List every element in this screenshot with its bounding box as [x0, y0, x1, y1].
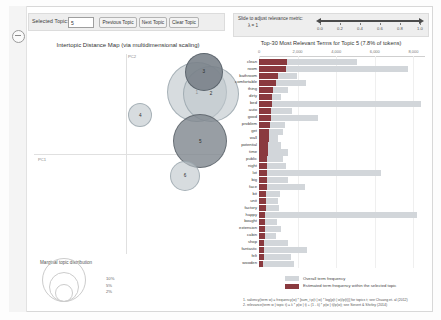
- term-bar-row[interactable]: happy: [259, 212, 425, 218]
- marginal-legend-size-label: 10%: [106, 276, 114, 281]
- term-label[interactable]: get: [217, 128, 257, 133]
- term-label[interactable]: big: [217, 177, 257, 182]
- topic-frequency-bar: [259, 170, 267, 176]
- topic-frequency-bar: [259, 233, 265, 239]
- topic-frequency-bar: [259, 261, 263, 267]
- topic-bubble-6[interactable]: 6: [170, 161, 200, 191]
- clear-topic-button[interactable]: Clear Topic: [169, 17, 199, 28]
- topic-input[interactable]: 5: [68, 17, 94, 28]
- term-bar-row[interactable]: public: [259, 156, 425, 162]
- legend-swatch: [285, 284, 299, 289]
- topic-frequency-bar: [259, 149, 268, 155]
- slider-tickmark: [380, 23, 381, 25]
- term-label[interactable]: bit: [217, 191, 257, 196]
- topic-frequency-bar: [259, 205, 266, 211]
- term-label[interactable]: bed: [217, 100, 257, 105]
- pc1-axis-label: PC1: [38, 157, 46, 162]
- topic-frequency-bar: [259, 108, 271, 114]
- term-bar-row[interactable]: problem: [259, 122, 425, 128]
- previous-topic-button[interactable]: Previous Topic: [99, 17, 137, 28]
- term-bar-row[interactable]: auto: [259, 108, 425, 114]
- term-bar-row[interactable]: bit: [259, 191, 425, 197]
- term-bar-row[interactable]: extension: [259, 226, 425, 232]
- term-frequency-bar-chart[interactable]: 02,0004,0006,0008,000cleanroombathroomco…: [259, 56, 425, 268]
- term-label[interactable]: public: [217, 156, 257, 161]
- term-label[interactable]: wooden: [217, 260, 257, 265]
- top-terms-title: Top-30 Most Relevant Terms for Topic 5 (…: [233, 40, 429, 46]
- overall-frequency-bar: [259, 247, 307, 253]
- term-bar-row[interactable]: comfortable: [259, 80, 425, 86]
- term-bar-row[interactable]: bought: [259, 219, 425, 225]
- term-bar-row[interactable]: shop: [259, 240, 425, 246]
- term-label[interactable]: clean: [217, 59, 257, 64]
- term-label[interactable]: factory: [217, 205, 257, 210]
- term-bar-row[interactable]: face: [259, 184, 425, 190]
- term-label[interactable]: time: [217, 149, 257, 154]
- term-label[interactable]: shop: [217, 239, 257, 244]
- collapse-icon[interactable]: [12, 30, 25, 43]
- term-bar-row[interactable]: good: [259, 115, 425, 121]
- term-label[interactable]: lot: [217, 170, 257, 175]
- term-bar-row[interactable]: get: [259, 129, 425, 135]
- topic-frequency-bar: [259, 135, 269, 141]
- term-label[interactable]: good: [217, 114, 257, 119]
- topic-frequency-bar: [259, 177, 267, 183]
- term-bar-row[interactable]: fantastic: [259, 247, 425, 253]
- term-label[interactable]: unit: [217, 198, 257, 203]
- topic-frequency-bar: [259, 247, 264, 253]
- slider-tickmark: [320, 23, 321, 25]
- term-bar-row[interactable]: big: [259, 177, 425, 183]
- term-bar-row[interactable]: cabin: [259, 233, 425, 239]
- term-bar-row[interactable]: room: [259, 66, 425, 72]
- term-label[interactable]: auto: [217, 107, 257, 112]
- term-bar-row[interactable]: clean: [259, 59, 425, 65]
- term-label[interactable]: problem: [217, 121, 257, 126]
- term-label[interactable]: potential: [217, 142, 257, 147]
- term-label[interactable]: wall: [217, 135, 257, 140]
- topic-frequency-bar: [259, 94, 272, 100]
- term-label[interactable]: face: [217, 184, 257, 189]
- term-bar-row[interactable]: night: [259, 163, 425, 169]
- topic-frequency-bar: [259, 115, 271, 121]
- topic-frequency-bar: [259, 101, 272, 107]
- relevance-slider-panel: Slide to adjust relevance metric: λ = 1 …: [233, 13, 429, 37]
- term-bar-row[interactable]: thing: [259, 87, 425, 93]
- term-bar-row[interactable]: felt: [259, 254, 425, 260]
- legend-swatch: [285, 276, 299, 281]
- term-label[interactable]: fantastic: [217, 246, 257, 251]
- term-bar-row[interactable]: dirty: [259, 94, 425, 100]
- term-label[interactable]: night: [217, 163, 257, 168]
- term-label[interactable]: bought: [217, 218, 257, 223]
- term-bar-row[interactable]: potential: [259, 142, 425, 148]
- overall-frequency-bar: [259, 170, 381, 176]
- topic-toolbar: Selected Topic: 5 Previous Topic Next To…: [28, 13, 225, 31]
- term-bar-row[interactable]: wall: [259, 135, 425, 141]
- intertopic-scatter-plot[interactable]: PC2 PC1 123456: [34, 54, 224, 254]
- term-label[interactable]: felt: [217, 253, 257, 258]
- term-bar-row[interactable]: factory: [259, 205, 425, 211]
- term-label[interactable]: happy: [217, 212, 257, 217]
- term-label[interactable]: thing: [217, 86, 257, 91]
- term-label[interactable]: bathroom: [217, 73, 257, 78]
- term-bar-row[interactable]: time: [259, 149, 425, 155]
- term-bar-row[interactable]: bathroom: [259, 73, 425, 79]
- term-label[interactable]: cabin: [217, 232, 257, 237]
- topic-frequency-bar: [259, 226, 265, 232]
- topic-frequency-bar: [259, 254, 264, 260]
- topic-bubble-4[interactable]: 4: [128, 103, 152, 127]
- term-bar-row[interactable]: unit: [259, 198, 425, 204]
- next-topic-button[interactable]: Next Topic: [139, 17, 167, 28]
- marginal-topic-distribution-legend: Marginal topic distribution 2%5%10%: [34, 260, 144, 308]
- topic-frequency-bar: [259, 87, 273, 93]
- slider-track[interactable]: [320, 20, 420, 22]
- term-label[interactable]: comfortable: [217, 79, 257, 84]
- term-label[interactable]: extension: [217, 225, 257, 230]
- y-axis-line: [126, 54, 127, 254]
- lambda-value: λ = 1: [248, 23, 258, 28]
- term-label[interactable]: room: [217, 66, 257, 71]
- topic-frequency-bar: [259, 142, 268, 148]
- term-bar-row[interactable]: wooden: [259, 261, 425, 267]
- term-bar-row[interactable]: bed: [259, 101, 425, 107]
- term-label[interactable]: dirty: [217, 93, 257, 98]
- term-bar-row[interactable]: lot: [259, 170, 425, 176]
